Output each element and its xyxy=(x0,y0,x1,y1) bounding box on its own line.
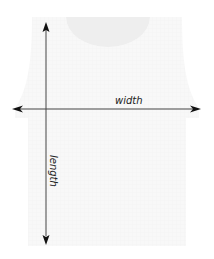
length-label: length xyxy=(48,155,59,187)
garment-silhouette xyxy=(15,17,199,246)
width-label: width xyxy=(115,95,143,106)
measurement-diagram: width length xyxy=(0,0,214,259)
